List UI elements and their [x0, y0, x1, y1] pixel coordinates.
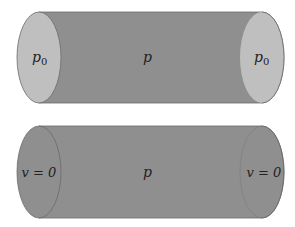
top-cylinder: p0 p p0 — [17, 12, 284, 103]
top-center-label: p — [143, 49, 152, 65]
pipe-diagram: p0 p p0 v = 0 p v = 0 — [0, 0, 295, 227]
bottom-cylinder: v = 0 p v = 0 — [17, 126, 284, 218]
bottom-left-cap-label: v = 0 — [22, 165, 57, 180]
bottom-center-label: p — [143, 164, 152, 180]
bottom-right-cap-label: v = 0 — [247, 165, 282, 180]
